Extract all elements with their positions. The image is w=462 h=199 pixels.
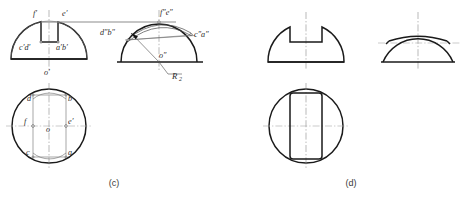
label-a: a (68, 148, 72, 157)
technical-drawing-canvas: f′ e′ c′d′ a′b′ o′ f″e″ d″b″ c″a″ o″ R 2… (0, 0, 462, 199)
label-radius-subscript: 2 (179, 76, 182, 82)
drawing-sheet: f′ e′ c′d′ a′b′ o′ f″e″ d″b″ c″a″ o″ R 2… (0, 0, 462, 199)
label-c-dblprime-a-dblprime: c″a″ (194, 30, 209, 39)
label-o-dblprime: o″ (159, 51, 167, 60)
side-view-d-slot-right-edge (447, 41, 450, 44)
side-view-c-vertex-fe (158, 21, 160, 23)
front-view-d-geometry (268, 12, 344, 70)
label-f-prime: f′ (33, 9, 37, 18)
label-o-prime: o′ (44, 68, 50, 77)
top-view-c-inner-arc-bottom (33, 153, 66, 159)
label-f: f (24, 117, 28, 126)
top-view-c-vertex-d (32, 94, 34, 96)
label-c: c (26, 148, 30, 157)
caption-d: (d) (346, 178, 357, 188)
label-e: e′ (68, 117, 74, 126)
label-c-prime-d-prime: c′d′ (19, 43, 31, 52)
side-view-d-geometry (378, 12, 460, 70)
label-b: b (68, 94, 72, 103)
label-radius-group: R 2 (171, 71, 182, 82)
radius-tail-line (159, 62, 168, 74)
top-view-d-geometry (263, 83, 349, 169)
top-view-c-vertex-e (65, 125, 68, 128)
front-view-d-outline (268, 27, 344, 62)
top-view-c-vertex-c (32, 156, 34, 158)
front-view-c-geometry (11, 10, 87, 70)
top-view-c-vertex-f (32, 125, 35, 128)
caption-c: (c) (109, 178, 120, 188)
top-view-c-inner-arc-top (33, 93, 66, 99)
front-view-c-vertex-cd (40, 41, 42, 43)
side-view-c-geometry (117, 10, 203, 74)
label-o: o (46, 125, 50, 134)
label-e-prime: e′ (62, 9, 68, 18)
side-view-d-slot-left-edge (386, 41, 389, 44)
label-f-dblprime-e-dblprime: f″e″ (160, 8, 173, 17)
label-d-dblprime-b-dblprime: d″b″ (100, 28, 116, 37)
label-radius-r: R (171, 71, 178, 81)
top-view-c-vertex-b (65, 94, 67, 96)
side-view-c-vertex-ca (190, 33, 192, 35)
top-view-c-vertex-a (65, 156, 67, 158)
label-a-prime-b-prime: a′b′ (56, 43, 68, 52)
side-view-c-vertex-db (127, 39, 129, 41)
label-d: d (27, 94, 32, 103)
